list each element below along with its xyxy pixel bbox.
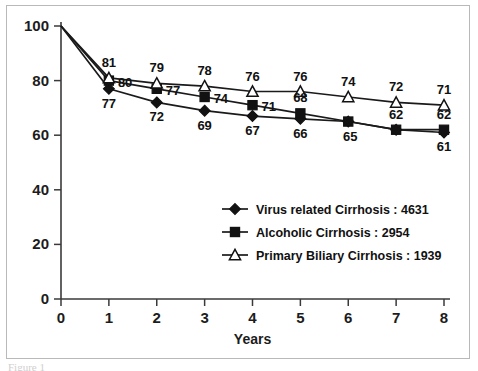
data-point-marker	[200, 92, 209, 101]
legend-sample-marker	[230, 204, 241, 215]
data-point-marker	[344, 117, 353, 126]
x-axis-title: Years	[234, 331, 272, 347]
figure-container: 020406080100012345678Years77726967666562…	[0, 0, 478, 371]
data-point-marker	[199, 105, 210, 116]
data-point-marker	[296, 109, 305, 118]
data-point-label: 65	[343, 129, 357, 144]
survival-curve-chart: 020406080100012345678Years77726967666562…	[7, 6, 468, 357]
x-tick-label: 1	[105, 309, 113, 326]
y-tick-label: 0	[41, 290, 49, 307]
x-tick-label: 5	[296, 309, 304, 326]
legend-entry: Alcoholic Cirrhosis : 2954	[222, 226, 410, 240]
legend-entry: Primary Biliary Cirrhosis : 1939	[222, 249, 442, 263]
data-point-label: 72	[150, 109, 164, 124]
y-tick-label: 40	[32, 181, 49, 198]
x-tick-label: 6	[344, 309, 352, 326]
x-tick-label: 2	[153, 309, 161, 326]
y-tick-label: 60	[32, 126, 49, 143]
data-point-marker	[439, 125, 448, 134]
data-point-label: 74	[214, 91, 229, 106]
data-point-label: 79	[150, 60, 164, 75]
data-point-label: 77	[166, 83, 180, 98]
data-point-marker	[247, 111, 258, 122]
x-tick-label: 0	[57, 309, 65, 326]
x-tick-label: 4	[248, 309, 257, 326]
data-point-label: 81	[102, 55, 116, 70]
data-point-label: 76	[245, 69, 259, 84]
data-point-label: 74	[341, 74, 356, 89]
legend-label: Primary Biliary Cirrhosis : 1939	[256, 249, 442, 263]
x-tick-label: 3	[200, 309, 208, 326]
data-point-label: 69	[197, 118, 211, 133]
legend-sample-marker	[230, 227, 239, 236]
data-point-label: 77	[102, 96, 116, 111]
y-tick-label: 80	[32, 72, 49, 89]
data-point-label: 66	[293, 126, 307, 141]
legend-label: Alcoholic Cirrhosis : 2954	[256, 226, 410, 240]
data-point-marker	[248, 101, 257, 110]
y-tick-label: 100	[24, 17, 49, 34]
data-point-label: 76	[293, 69, 307, 84]
data-point-label: 68	[293, 90, 307, 105]
y-tick-label: 20	[32, 235, 49, 252]
data-point-label: 72	[389, 79, 403, 94]
data-point-label: 62	[437, 107, 451, 122]
data-point-label: 80	[118, 75, 132, 90]
chart-frame: 020406080100012345678Years77726967666562…	[6, 5, 470, 359]
data-point-label: 71	[437, 82, 451, 97]
x-tick-label: 8	[440, 309, 448, 326]
data-point-label: 67	[245, 123, 259, 138]
data-point-label: 62	[389, 107, 403, 122]
data-point-label: 78	[197, 63, 211, 78]
data-point-marker	[392, 125, 401, 134]
legend-label: Virus related Cirrhosis : 4631	[256, 203, 429, 217]
data-point-marker	[151, 97, 162, 108]
data-point-label: 71	[262, 99, 276, 114]
legend-entry: Virus related Cirrhosis : 4631	[222, 203, 429, 217]
data-point-label: 61	[437, 139, 451, 154]
figure-caption: Figure 1	[8, 361, 45, 371]
x-tick-label: 7	[392, 309, 400, 326]
